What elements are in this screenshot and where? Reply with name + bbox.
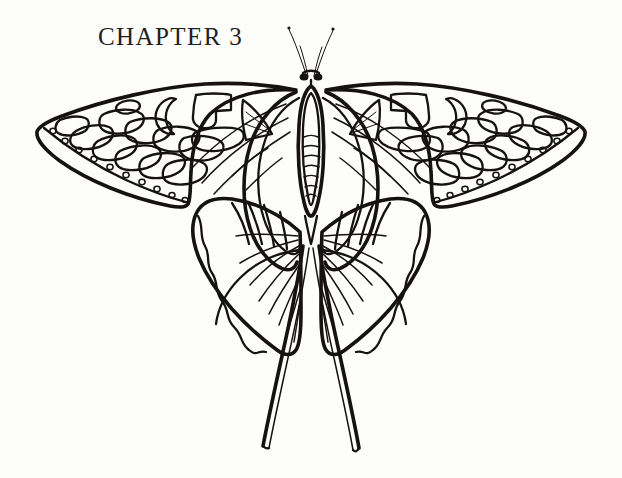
tail-left-tip: [263, 446, 269, 448]
eye-left-icon: [300, 73, 309, 80]
antenna-right-club-icon: [331, 27, 334, 30]
forewing-left-outline: [37, 83, 296, 207]
scanned-page: CHAPTER 3: [0, 0, 622, 478]
tail-right-tip: [353, 448, 359, 451]
forewing-right-outline: [326, 83, 585, 207]
forewing-left: [37, 83, 296, 207]
antenna-left-club-icon: [287, 26, 290, 29]
antenna-right-icon: [316, 29, 333, 74]
eye-right-icon: [314, 73, 323, 80]
abdomen-tip: [305, 216, 317, 244]
head-knot: [303, 71, 319, 73]
forewing-right-basal-cells: [340, 148, 390, 190]
body-group: [298, 86, 324, 216]
antennae-group: [287, 26, 334, 76]
antenna-left-icon: [289, 28, 306, 74]
butterfly-illustration: [0, 0, 622, 478]
forewing-left-basal-cells: [232, 148, 282, 190]
forewing-right: [326, 83, 585, 207]
